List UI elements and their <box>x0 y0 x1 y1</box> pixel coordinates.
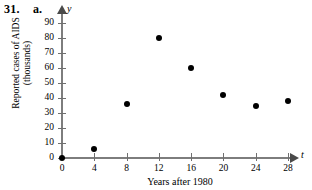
x-axis-tick-label: 28 <box>277 164 299 174</box>
scatter-plot: y t 0102030405060708090 0481216202428 Re… <box>0 0 312 190</box>
x-axis-tick <box>256 153 257 161</box>
data-point <box>59 155 65 161</box>
x-axis-tick <box>127 153 128 161</box>
y-axis-tick <box>58 53 66 54</box>
y-axis-title-line1: Reported cases of AIDS <box>11 17 21 109</box>
x-axis-tick-label: 0 <box>51 164 73 174</box>
x-axis-tick-label: 8 <box>116 164 138 174</box>
y-axis-tick-label: 10 <box>32 138 54 148</box>
y-axis-tick <box>58 38 66 39</box>
y-axis-tick <box>58 98 66 99</box>
y-axis-tick-label: 20 <box>32 123 54 133</box>
data-point <box>285 98 291 104</box>
data-point <box>253 103 259 109</box>
data-point <box>91 146 97 152</box>
y-axis-variable-label: y <box>67 3 71 14</box>
y-axis-title-line2: (thousands) <box>22 3 33 123</box>
y-axis-tick <box>58 83 66 84</box>
y-axis-tick-label: 30 <box>32 108 54 118</box>
y-axis-tick-label: 70 <box>32 48 54 58</box>
x-axis-line <box>61 157 295 159</box>
x-axis-tick <box>159 153 160 161</box>
y-axis-tick-label: 0 <box>32 153 54 163</box>
x-axis-title: Years after 1980 <box>100 176 260 187</box>
y-axis-tick <box>58 143 66 144</box>
figure-container: 31. a. y t 0102030405060708090 048121620… <box>0 0 312 190</box>
x-axis-tick-label: 24 <box>245 164 267 174</box>
x-axis-tick <box>288 153 289 161</box>
y-axis-title: Reported cases of AIDS (thousands) <box>11 3 33 123</box>
y-axis-tick-label: 40 <box>32 93 54 103</box>
x-axis-tick-label: 20 <box>212 164 234 174</box>
data-point <box>220 92 226 98</box>
y-axis-tick-label: 50 <box>32 78 54 88</box>
data-point <box>156 35 162 41</box>
x-axis-tick-label: 16 <box>180 164 202 174</box>
data-point <box>188 65 194 71</box>
y-axis-tick <box>58 68 66 69</box>
y-axis-arrow-icon <box>57 5 67 14</box>
y-axis-tick-label: 60 <box>32 63 54 73</box>
y-axis-tick <box>58 23 66 24</box>
y-axis-tick <box>58 128 66 129</box>
x-axis-tick <box>191 153 192 161</box>
x-axis-tick-label: 4 <box>83 164 105 174</box>
x-axis-arrow-icon <box>290 153 299 163</box>
y-axis-tick-label: 90 <box>32 18 54 28</box>
y-axis-line <box>61 13 63 159</box>
x-axis-variable-label: t <box>301 149 304 160</box>
x-axis-tick-label: 12 <box>148 164 170 174</box>
y-axis-tick <box>58 113 66 114</box>
x-axis-tick <box>223 153 224 161</box>
data-point <box>124 101 130 107</box>
y-axis-tick-label: 80 <box>32 33 54 43</box>
x-axis-tick <box>94 153 95 161</box>
